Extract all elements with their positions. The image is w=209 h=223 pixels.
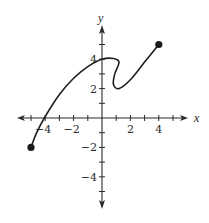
x-axis-label: x xyxy=(193,111,200,125)
x-tick-label: 2 xyxy=(127,123,134,136)
y-axis-label: y xyxy=(97,11,104,25)
x-tick-label: −2 xyxy=(63,123,79,136)
axes xyxy=(17,25,188,209)
x-tick-label: 4 xyxy=(155,123,162,136)
endpoint-dot xyxy=(155,41,162,48)
y-tick-label: −2 xyxy=(81,141,97,154)
function-graph: −4−22442−2−4 x y xyxy=(0,0,209,223)
y-tick-label: 2 xyxy=(90,83,97,96)
endpoint-dot xyxy=(27,144,34,151)
y-tick-label: −4 xyxy=(81,171,97,184)
